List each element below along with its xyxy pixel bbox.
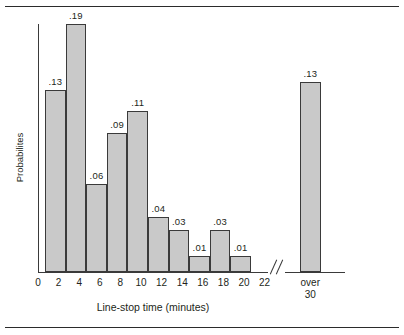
bar-20-22 <box>230 256 251 272</box>
xtick-2: 2 <box>49 277 69 288</box>
bar-over-30 <box>300 82 321 272</box>
bar-label-over-30: .13 <box>300 68 321 79</box>
xtick-14: 14 <box>172 277 192 288</box>
bar-label-14-16: .03 <box>169 216 190 227</box>
bar-8-10 <box>107 133 128 272</box>
bar-label-2-4: .13 <box>45 76 66 87</box>
xtick-over: over <box>293 277 327 289</box>
xtick-10: 10 <box>131 277 151 288</box>
bar-16-18 <box>189 256 210 272</box>
y-axis-line <box>38 24 39 273</box>
bar-12-14 <box>148 217 169 272</box>
bar-4-6 <box>66 24 87 272</box>
axis-break-icon <box>268 259 288 277</box>
plot-area: .13 .19 .06 .09 .11 .04 .03 .01 .03 .01 … <box>0 0 404 335</box>
xtick-16: 16 <box>193 277 213 288</box>
xtick-8: 8 <box>110 277 130 288</box>
bar-label-10-12: .11 <box>127 97 148 108</box>
xtick-4: 4 <box>69 277 89 288</box>
xtick-6: 6 <box>90 277 110 288</box>
histogram-figure: .13 .19 .06 .09 .11 .04 .03 .01 .03 .01 … <box>0 0 404 335</box>
bar-label-6-8: .06 <box>86 170 107 181</box>
bar-label-12-14: .04 <box>148 203 169 214</box>
bar-10-12 <box>127 111 148 272</box>
x-axis-line-right <box>285 272 345 273</box>
bar-label-4-6: .19 <box>66 10 87 21</box>
bar-label-8-10: .09 <box>107 119 128 130</box>
xtick-thirty: 30 <box>293 289 327 301</box>
xtick-20: 20 <box>234 277 254 288</box>
x-axis-title: Line-stop time (minutes) <box>38 301 268 313</box>
xtick-0: 0 <box>28 277 48 288</box>
bar-18-20 <box>210 230 231 272</box>
bar-label-20-22: .01 <box>230 242 251 253</box>
bar-label-18-20: .03 <box>210 216 231 227</box>
y-axis-title: Probabilites <box>14 103 25 213</box>
bar-14-16 <box>169 230 190 272</box>
x-axis-line-left <box>38 272 268 273</box>
xtick-12: 12 <box>152 277 172 288</box>
xtick-22: 22 <box>255 277 275 288</box>
xtick-18: 18 <box>213 277 233 288</box>
bar-label-16-18: .01 <box>189 242 210 253</box>
bar-2-4 <box>45 90 66 272</box>
bar-6-8 <box>86 184 107 272</box>
